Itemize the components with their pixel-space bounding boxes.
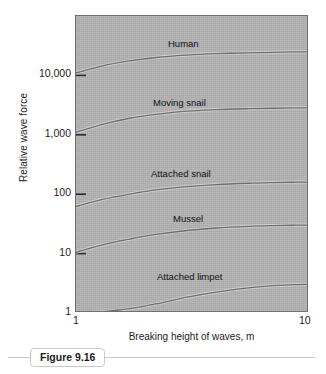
y-axis-tick-label: 100 xyxy=(19,186,71,198)
curve-label-human: Human xyxy=(168,38,199,49)
y-axis-tick-label: 1,000 xyxy=(19,127,71,139)
curve-attached-snail xyxy=(76,182,308,206)
curve-label-attached-snail: Attached snail xyxy=(151,168,211,179)
curve-halo xyxy=(76,284,308,312)
figure-caption: Figure 9.16 xyxy=(30,348,105,367)
curve-halo xyxy=(76,225,308,252)
curve-attached-limpet xyxy=(76,284,308,312)
curve-label-mussel: Mussel xyxy=(173,213,203,224)
curve-label-moving-snail: Moving snail xyxy=(153,97,206,108)
y-axis-tick-label: 10,000 xyxy=(19,67,71,79)
x-axis-tick-label-max: 10 xyxy=(299,314,311,326)
x-axis-tick-label-min: 1 xyxy=(73,314,79,326)
curve-moving-snail xyxy=(76,108,308,133)
chart-curves xyxy=(76,16,308,312)
chart-plot-area xyxy=(75,15,308,312)
curve-human xyxy=(76,52,308,73)
curve-label-attached-limpet: Attached limpet xyxy=(157,271,222,282)
figure-9-16: Relative wave force 1101001,00010,000 1 … xyxy=(0,0,326,374)
x-axis-title: Breaking height of waves, m xyxy=(75,331,308,342)
y-axis-tick-label: 1 xyxy=(19,305,71,317)
y-axis-tick-labels: 1101001,00010,000 xyxy=(18,0,71,312)
y-axis-tick-label: 10 xyxy=(19,246,71,258)
